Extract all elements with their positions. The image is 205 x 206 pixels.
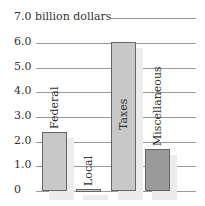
bar-chart: 01.02.03.04.05.06.07.0 billion dollars F… [0, 0, 205, 206]
y-tick-label: 5.0 [14, 61, 32, 73]
bar-shadow [83, 195, 108, 200]
bar-federal [42, 132, 67, 191]
bar-label: Taxes [118, 99, 130, 130]
y-tick-label: 0 [14, 184, 21, 196]
bar-label: Local [83, 156, 95, 186]
y-tick-label: 3.0 [14, 110, 32, 122]
y-tick-label: 1.0 [14, 159, 32, 171]
bar-label: Miscellaneous [152, 66, 164, 146]
y-tick-label: 6.0 [14, 36, 32, 48]
y-tick-label: 2.0 [14, 135, 32, 147]
bar-label: Federal [49, 87, 61, 129]
y-tick-label: 4.0 [14, 85, 32, 97]
bar-miscellaneous [145, 149, 170, 191]
bar-local [76, 189, 101, 192]
gridline [110, 18, 196, 19]
y-tick-label: 7.0 billion dollars [14, 11, 111, 23]
